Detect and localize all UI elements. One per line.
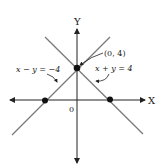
line-x-plus-y-eq-4 xyxy=(45,37,143,134)
point-neg4-0 xyxy=(42,98,48,104)
arrow-to-x-minus-y-icon xyxy=(47,74,57,82)
line-label-x-minus-y: x − y = −4 xyxy=(16,65,60,74)
arrow-to-x-plus-y-icon xyxy=(96,74,109,81)
y-axis-label: Y xyxy=(73,16,81,27)
x-axis-label: X xyxy=(148,95,156,106)
line-label-x-plus-y: x + y = 4 xyxy=(95,64,133,73)
point-4-0 xyxy=(107,97,113,103)
origin-label: 0 xyxy=(69,105,74,114)
point-label-0-4: (0, 4) xyxy=(104,49,126,58)
coordinate-diagram: Y X 0 (0, 4) x + y = 4 x − y = −4 xyxy=(0,0,164,164)
point-0-4 xyxy=(74,65,81,72)
